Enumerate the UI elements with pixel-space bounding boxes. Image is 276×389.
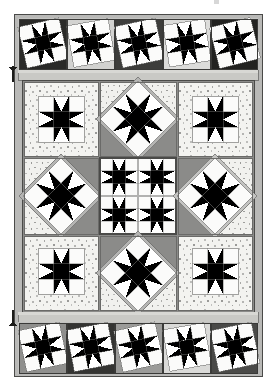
- quilt-frame: [14, 14, 262, 376]
- border-block: [66, 322, 115, 373]
- top-pieced-border: [18, 18, 261, 70]
- border-block: [114, 18, 164, 69]
- border-block: [18, 322, 68, 373]
- block-top-center: [96, 77, 180, 161]
- border-block: [163, 19, 211, 69]
- border-block: [210, 18, 261, 69]
- bottom-pieced-border: [18, 322, 260, 374]
- block-top-right: [178, 82, 252, 156]
- quilt-diagram-canvas: [0, 0, 276, 389]
- bottom-sashing-band: [18, 312, 258, 322]
- block-bottom-right: [178, 236, 252, 310]
- block-center-medallion: [100, 158, 176, 234]
- border-block: [67, 19, 116, 69]
- top-crop-artifact: [214, 0, 219, 4]
- border-block: [114, 322, 164, 373]
- border-block: [210, 322, 260, 373]
- block-mid-left: [19, 154, 103, 238]
- block-bottom-left: [24, 236, 98, 310]
- center-field: [19, 77, 257, 315]
- block-mid-right: [173, 154, 257, 238]
- block-bottom-center: [96, 231, 180, 315]
- quilt-diagram: [0, 0, 276, 389]
- border-block: [163, 323, 212, 373]
- border-block: [18, 18, 68, 69]
- block-top-left: [24, 82, 98, 156]
